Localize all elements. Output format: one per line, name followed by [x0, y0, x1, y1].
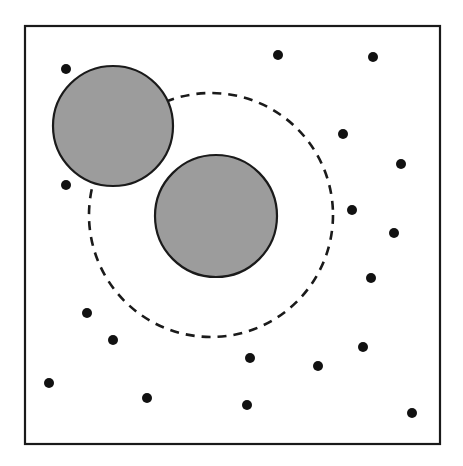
scatter-point — [366, 273, 376, 283]
scatter-point — [358, 342, 368, 352]
scatter-point — [61, 180, 71, 190]
scatter-point — [108, 335, 118, 345]
scatter-point — [82, 308, 92, 318]
scatter-point — [407, 408, 417, 418]
scatter-point — [396, 159, 406, 169]
scatter-point — [44, 378, 54, 388]
figure-container — [0, 0, 463, 466]
diagram-canvas — [0, 0, 463, 466]
scatter-point — [242, 400, 252, 410]
upper-left-disk — [53, 66, 173, 186]
scatter-point — [245, 353, 255, 363]
scatter-point — [273, 50, 283, 60]
scatter-point — [338, 129, 348, 139]
scatter-point — [347, 205, 357, 215]
lower-right-disk — [155, 155, 277, 277]
scatter-point — [368, 52, 378, 62]
scatter-point — [389, 228, 399, 238]
scatter-point — [61, 64, 71, 74]
scatter-point — [142, 393, 152, 403]
scatter-point — [313, 361, 323, 371]
